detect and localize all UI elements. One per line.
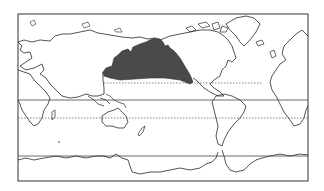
island-dot (58, 141, 60, 143)
world-map (0, 0, 324, 191)
